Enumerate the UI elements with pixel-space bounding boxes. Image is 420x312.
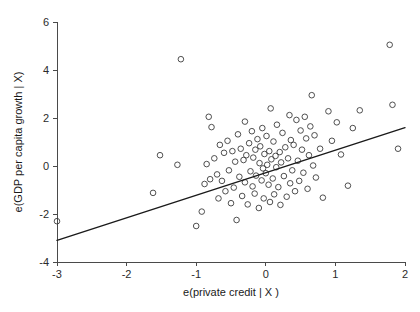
- scatter-point: [284, 194, 290, 200]
- scatter-plot-figure: -4-20246 -3-2-1012 e(private credit | X …: [0, 0, 420, 312]
- scatter-point: [281, 173, 287, 179]
- scatter-point: [225, 138, 231, 144]
- x-axis: -3-2-1012: [52, 262, 408, 280]
- scatter-point: [252, 191, 258, 197]
- scatter-point: [277, 149, 283, 155]
- scatter-point: [345, 183, 351, 189]
- scatter-point: [255, 136, 261, 142]
- scatter-point: [204, 161, 210, 167]
- scatter-point: [264, 162, 270, 168]
- scatter-point: [310, 163, 316, 169]
- scatter-point: [237, 174, 243, 180]
- regression-fit-line: [57, 128, 405, 241]
- scatter-point: [282, 144, 288, 150]
- scatter-point: [219, 178, 225, 184]
- scatter-point: [317, 146, 323, 152]
- scatter-point: [260, 125, 266, 131]
- scatter-point: [257, 144, 263, 150]
- scatter-point: [266, 182, 272, 188]
- scatter-point: [268, 106, 274, 112]
- scatter-point: [287, 180, 293, 186]
- scatter-point: [266, 148, 272, 154]
- scatter-point: [223, 188, 229, 194]
- x-tick-label: -3: [52, 268, 62, 280]
- scatter-point: [291, 142, 297, 148]
- scatter-point: [299, 147, 305, 153]
- y-tick-label: 2: [43, 112, 49, 124]
- scatter-point: [256, 205, 262, 211]
- scatter-point: [308, 124, 314, 130]
- scatter-point: [271, 139, 277, 145]
- scatter-point: [264, 133, 270, 139]
- scatter-point: [206, 114, 212, 120]
- scatter-point: [271, 192, 277, 198]
- x-tick-label: -2: [122, 268, 132, 280]
- scatter-point: [257, 160, 263, 166]
- scatter-point: [226, 168, 232, 174]
- y-tick-label: -2: [39, 208, 49, 220]
- scatter-point: [212, 156, 218, 162]
- scatter-point: [312, 132, 318, 138]
- scatter-point: [242, 119, 248, 125]
- partial-regression-plot: -4-20246 -3-2-1012 e(private credit | X …: [0, 0, 420, 312]
- scatter-point: [216, 196, 222, 202]
- x-tick-label: 0: [263, 268, 269, 280]
- scatter-point: [270, 176, 276, 182]
- scatter-point: [150, 190, 156, 196]
- scatter-point: [334, 120, 340, 126]
- scatter-point: [303, 136, 309, 142]
- scatter-point: [338, 152, 344, 158]
- scatter-point: [296, 178, 302, 184]
- x-axis-title: e(private credit | X ): [183, 286, 279, 298]
- scatter-point: [231, 185, 237, 191]
- x-tick-label: 1: [332, 268, 338, 280]
- scatter-point: [202, 181, 208, 187]
- scatter-point: [278, 160, 284, 166]
- scatter-point: [246, 140, 252, 146]
- scatter-point: [178, 56, 184, 62]
- scatter-point: [278, 202, 284, 208]
- scatter-point: [199, 209, 205, 215]
- scatter-point: [287, 112, 293, 118]
- scatter-point: [230, 148, 236, 154]
- scatter-point: [248, 168, 254, 174]
- scatter-point: [350, 125, 356, 131]
- scatter-point: [298, 128, 304, 134]
- scatter-point: [245, 202, 251, 208]
- scatter-point: [207, 176, 213, 182]
- x-tick-label: -1: [191, 268, 201, 280]
- scatter-point: [294, 117, 300, 123]
- y-tick-label: -4: [39, 256, 49, 268]
- scatter-point: [306, 152, 312, 158]
- scatter-point: [320, 195, 326, 201]
- scatter-point: [157, 152, 163, 158]
- scatter-point: [302, 114, 308, 120]
- scatter-point: [390, 102, 396, 108]
- scatter-point: [305, 186, 311, 192]
- scatter-point: [289, 168, 295, 174]
- scatter-point: [221, 150, 227, 156]
- scatter-point: [193, 223, 199, 229]
- scatter-point: [232, 159, 238, 165]
- scatter-point: [261, 196, 267, 202]
- scatter-point: [234, 217, 240, 223]
- scatter-point: [175, 162, 181, 168]
- scatter-point: [209, 124, 215, 130]
- scatter-point: [235, 132, 241, 138]
- x-tick-label: 2: [402, 268, 408, 280]
- scatter-point: [238, 146, 244, 152]
- y-axis-title: e(GDP per capita growth | X): [12, 72, 24, 213]
- scatter-point: [276, 184, 282, 190]
- scatter-point: [214, 172, 220, 178]
- scatter-point: [301, 170, 307, 176]
- scatter-point: [249, 128, 255, 134]
- y-axis: -4-20246: [39, 16, 57, 268]
- scatter-point: [274, 122, 280, 128]
- scatter-point: [313, 175, 319, 181]
- scatter-point: [292, 188, 298, 194]
- scatter-point: [309, 92, 315, 98]
- y-tick-label: 4: [43, 64, 49, 76]
- scatter-point: [259, 178, 265, 184]
- scatter-point: [228, 200, 234, 206]
- y-tick-label: 0: [43, 160, 49, 172]
